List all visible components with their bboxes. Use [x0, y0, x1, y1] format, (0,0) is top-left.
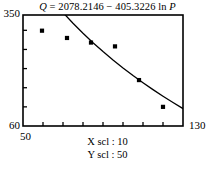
equation-equals: =: [47, 1, 58, 12]
x-axis-max-label: 130: [189, 119, 206, 131]
plot-area: [22, 14, 184, 127]
data-point-marker: [137, 78, 141, 82]
equation-operator: −: [104, 1, 115, 12]
y-axis-min-label: 60: [0, 119, 20, 131]
data-point-marker: [113, 44, 117, 48]
plot-canvas: [22, 14, 184, 127]
equation-log-function: ln: [156, 1, 170, 12]
equation-intercept: 2078.2146: [58, 1, 104, 12]
data-point-marker: [40, 29, 44, 33]
data-point-marker: [161, 105, 165, 109]
equation-title: Q = 2078.2146 − 405.3226 ln P: [0, 1, 215, 13]
y-axis-max-label: 350: [0, 7, 20, 19]
data-point-marker: [65, 36, 69, 40]
data-point-marker: [89, 40, 93, 44]
x-scale-note: X scl : 10: [0, 136, 215, 148]
equation-slope: 405.3226: [115, 1, 155, 12]
y-scale-note: Y scl : 50: [0, 149, 215, 161]
plot-frame: [23, 15, 183, 126]
equation-response-variable: Q: [39, 1, 47, 12]
equation-predictor-variable: P: [169, 1, 176, 12]
logarithmic-regression-figure: Q = 2078.2146 − 405.3226 ln P 350 60 50 …: [0, 0, 215, 169]
